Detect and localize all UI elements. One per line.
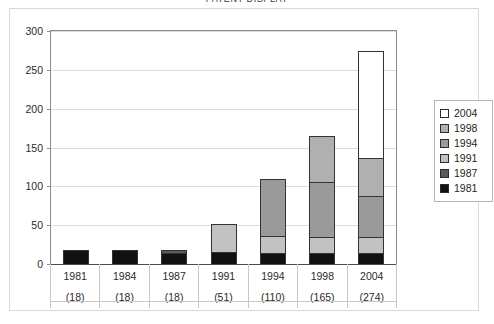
y-axis-tick-label: 200 bbox=[25, 103, 43, 115]
bar-column[interactable] bbox=[309, 136, 335, 264]
y-axis-tick-label: 250 bbox=[25, 64, 43, 76]
bar-segment[interactable] bbox=[309, 253, 335, 264]
plot-area: 050100150200250300 bbox=[50, 30, 397, 265]
legend-swatch-icon bbox=[440, 139, 449, 148]
bar-column[interactable] bbox=[161, 250, 187, 264]
legend-item[interactable]: 2004 bbox=[440, 106, 488, 121]
legend-swatch-icon bbox=[440, 109, 449, 118]
y-axis-tick-label: 0 bbox=[37, 258, 43, 270]
legend-swatch-icon bbox=[440, 124, 449, 133]
y-axis-tick bbox=[47, 186, 51, 187]
bar-segment[interactable] bbox=[63, 250, 89, 264]
bars-group bbox=[51, 31, 396, 264]
legend-item[interactable]: 1998 bbox=[440, 121, 488, 136]
x-axis-year-label: 1998 bbox=[311, 270, 334, 282]
bar-segment[interactable] bbox=[358, 253, 384, 264]
y-axis-tick bbox=[47, 31, 51, 32]
bar-segment[interactable] bbox=[358, 51, 384, 157]
legend-item[interactable]: 1987 bbox=[440, 166, 488, 181]
y-axis-tick bbox=[47, 70, 51, 71]
bar-segment[interactable] bbox=[260, 253, 286, 264]
bar-segment[interactable] bbox=[211, 252, 237, 264]
x-axis-underline bbox=[50, 301, 397, 302]
x-axis-year-label: 1984 bbox=[113, 270, 136, 282]
bar-column[interactable] bbox=[358, 51, 384, 264]
legend-item-label: 1991 bbox=[454, 153, 477, 164]
bar-segment[interactable] bbox=[358, 196, 384, 237]
legend-item-label: 1981 bbox=[454, 183, 477, 194]
bar-segment[interactable] bbox=[309, 182, 335, 236]
legend-item[interactable]: 1994 bbox=[440, 136, 488, 151]
legend-swatch-icon bbox=[440, 169, 449, 178]
y-axis-tick bbox=[47, 109, 51, 110]
bar-segment[interactable] bbox=[112, 250, 138, 264]
bar-column[interactable] bbox=[112, 250, 138, 264]
legend-item-label: 1998 bbox=[454, 123, 477, 134]
bar-segment[interactable] bbox=[211, 224, 237, 251]
chart-page: PATENT DISPLAY 050100150200250300 1981(1… bbox=[0, 0, 494, 324]
bar-segment[interactable] bbox=[358, 237, 384, 253]
legend-item[interactable]: 1981 bbox=[440, 181, 488, 196]
bar-column[interactable] bbox=[211, 224, 237, 264]
chart-title-strip: PATENT DISPLAY bbox=[0, 0, 494, 7]
chart-title: PATENT DISPLAY bbox=[0, 0, 494, 4]
chart-frame: 050100150200250300 1981(18)1984(18)1987(… bbox=[9, 8, 479, 311]
x-axis-year-label: 2004 bbox=[360, 270, 383, 282]
legend-swatch-icon bbox=[440, 154, 449, 163]
plot-wrapper: 050100150200250300 1981(18)1984(18)1987(… bbox=[10, 9, 480, 312]
bar-segment[interactable] bbox=[309, 237, 335, 253]
legend-item[interactable]: 1991 bbox=[440, 151, 488, 166]
legend-swatch-icon bbox=[440, 184, 449, 193]
x-axis-year-label: 1987 bbox=[162, 270, 185, 282]
x-axis-year-label: 1991 bbox=[212, 270, 235, 282]
y-axis-tick-label: 50 bbox=[31, 219, 43, 231]
x-axis-year-label: 1994 bbox=[261, 270, 284, 282]
x-axis-year-label: 1981 bbox=[64, 270, 87, 282]
bar-segment[interactable] bbox=[358, 158, 384, 196]
bar-segment[interactable] bbox=[309, 136, 335, 183]
y-axis-tick-label: 150 bbox=[25, 142, 43, 154]
y-axis-tick bbox=[47, 148, 51, 149]
bar-segment[interactable] bbox=[161, 253, 187, 264]
bar-segment[interactable] bbox=[260, 179, 286, 236]
legend-item-label: 1994 bbox=[454, 138, 477, 149]
chart-legend: 200419981994199119871981 bbox=[434, 100, 493, 202]
bar-segment[interactable] bbox=[260, 236, 286, 253]
legend-item-label: 1987 bbox=[454, 168, 477, 179]
bar-column[interactable] bbox=[63, 250, 89, 264]
y-axis-tick-label: 300 bbox=[25, 25, 43, 37]
y-axis-tick-label: 100 bbox=[25, 180, 43, 192]
legend-item-label: 2004 bbox=[454, 108, 477, 119]
y-axis-tick bbox=[47, 225, 51, 226]
bar-column[interactable] bbox=[260, 179, 286, 264]
